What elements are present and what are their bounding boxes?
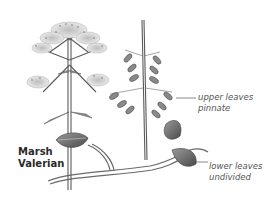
annotation-lower-line-1: lower leaves	[209, 161, 262, 172]
annotation-upper-line-1: upper leaves	[198, 92, 253, 103]
annotation-upper-leaves: upper leaves pinnate	[198, 92, 253, 113]
annotation-lower-leaves: lower leaves undivided	[209, 161, 262, 182]
title-line-2: Valerian	[18, 158, 64, 170]
leafy-stem	[142, 20, 147, 160]
leaflet-ribs	[110, 50, 172, 94]
species-title: Marsh Valerian	[18, 146, 64, 170]
annotation-lower-line-2: undivided	[209, 172, 262, 183]
pinnate-leaves	[108, 53, 173, 120]
botanical-illustration: Marsh Valerian upper leaves pinnate lowe…	[0, 0, 272, 199]
title-line-1: Marsh	[18, 146, 64, 158]
annotation-upper-line-2: pinnate	[198, 103, 253, 114]
